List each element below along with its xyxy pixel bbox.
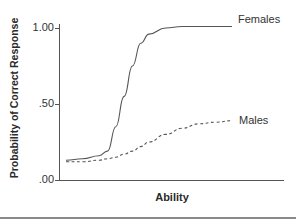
males-legend-label: Males (239, 114, 268, 126)
separator-line (0, 217, 296, 219)
plot-area (0, 0, 296, 222)
males-line (66, 121, 232, 162)
x-axis-label: Ability (59, 191, 285, 203)
females-line (66, 27, 232, 161)
females-legend-label: Females (238, 13, 280, 25)
